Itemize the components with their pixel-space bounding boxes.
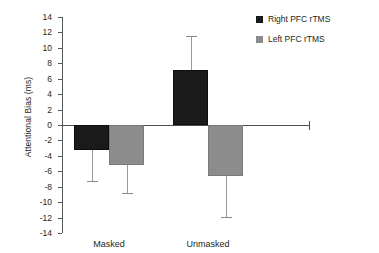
y-axis-title: Attentional Bias (ms) <box>23 37 33 197</box>
y-tick: -4 <box>58 156 62 157</box>
bar-chart: Attentional Bias (ms) 14121086420-2-4-6-… <box>0 0 379 253</box>
y-tick-label: 6 <box>47 74 52 84</box>
y-tick-label: -2 <box>44 135 52 145</box>
y-tick: -14 <box>58 233 62 234</box>
error-bar-cap <box>87 181 98 182</box>
y-tick: 2 <box>58 110 62 111</box>
y-tick-label: -10 <box>40 197 52 207</box>
y-tick: 8 <box>58 63 62 64</box>
y-tick: 12 <box>58 32 62 33</box>
error-bar-stem <box>92 150 93 180</box>
error-bar-cap <box>186 36 197 37</box>
error-bar-cap <box>122 193 133 194</box>
y-tick: 10 <box>58 48 62 49</box>
y-tick: -2 <box>58 140 62 141</box>
bar <box>173 70 208 125</box>
y-tick-label: -14 <box>40 228 52 238</box>
chart-legend: Right PFC rTMS Left PFC rTMS <box>256 14 330 54</box>
error-bar-stem <box>127 165 128 193</box>
legend-item-right-pfc: Right PFC rTMS <box>256 14 330 24</box>
y-tick: -10 <box>58 202 62 203</box>
legend-item-left-pfc: Left PFC rTMS <box>256 34 330 44</box>
error-bar-cap <box>221 217 232 218</box>
y-tick: 4 <box>58 94 62 95</box>
bar <box>208 125 243 176</box>
error-bar-stem <box>191 36 192 70</box>
y-tick: -8 <box>58 187 62 188</box>
legend-swatch-icon <box>256 36 263 43</box>
y-tick: -12 <box>58 218 62 219</box>
y-tick-label: 0 <box>47 120 52 130</box>
y-tick: -6 <box>58 171 62 172</box>
error-bar-stem <box>226 176 227 217</box>
legend-label: Right PFC rTMS <box>268 14 330 24</box>
y-tick-label: -12 <box>40 213 52 223</box>
bar <box>74 125 109 150</box>
y-tick-label: 2 <box>47 105 52 115</box>
y-tick-label: 14 <box>43 12 52 22</box>
y-tick-label: -4 <box>44 151 52 161</box>
y-tick-label: -6 <box>44 166 52 176</box>
legend-label: Left PFC rTMS <box>268 34 325 44</box>
y-tick-label: 12 <box>43 27 52 37</box>
y-tick-label: 10 <box>43 43 52 53</box>
category-label: Unmasked <box>186 239 229 249</box>
y-tick-label: -8 <box>44 182 52 192</box>
bar <box>109 125 144 165</box>
y-tick: 14 <box>58 17 62 18</box>
y-tick-label: 4 <box>47 89 52 99</box>
legend-swatch-icon <box>256 16 263 23</box>
y-tick: 6 <box>58 79 62 80</box>
axis-end-tick <box>309 121 310 130</box>
y-tick-label: 8 <box>47 58 52 68</box>
category-label: Masked <box>93 239 125 249</box>
